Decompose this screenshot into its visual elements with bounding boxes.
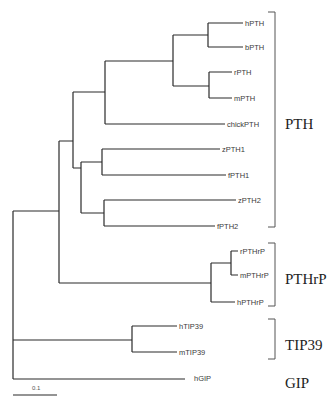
leaf-label-mPTH: mPTH (234, 94, 255, 103)
bracket-pthrp (268, 243, 275, 306)
group-label-tip39: TIP39 (285, 337, 323, 353)
leaf-label-fPTH2: fPTH2 (217, 222, 238, 231)
branch-root (13, 211, 185, 379)
leaf-label-bPTH: bPTH (245, 43, 264, 52)
branch-pth1-fish-node (102, 149, 226, 175)
leaf-label-rPTHrP: rPTHrP (240, 247, 265, 256)
bracket-tip39 (268, 319, 275, 359)
branch-hPTH-bPTH-node (208, 23, 243, 47)
leaf-label-hPTHrP: hPTHrP (237, 298, 264, 307)
leaf-label-chickPTH: chickPTH (227, 120, 259, 129)
branch-tip39-node (132, 326, 177, 352)
group-label-pthrp: PTHrP (285, 271, 327, 287)
leaf-label-rPTH: rPTH (234, 68, 252, 77)
leaf-label-zPTH2: zPTH2 (238, 196, 261, 205)
branch-tetrapod-pth-node (105, 61, 225, 124)
group-label-pth: PTH (285, 116, 314, 132)
tree-branches (13, 23, 243, 379)
scale-bar-label: 0.1 (32, 385, 41, 391)
leaf-label-mTIP39: mTIP39 (179, 348, 205, 357)
leaf-label-zPTH1: zPTH1 (222, 145, 245, 154)
branch-rm-pthrp-node (231, 251, 238, 275)
leaf-label-hPTH: hPTH (245, 19, 264, 28)
group-label-gip: GIP (285, 375, 309, 391)
branch-fish-pth-node (81, 162, 104, 213)
leaf-label-mPTHrP: mPTHrP (240, 271, 269, 280)
leaf-labels: hPTH bPTH rPTH mPTH chickPTH zPTH1 fPTH1… (179, 19, 269, 383)
phylogenetic-tree: hPTH bPTH rPTH mPTH chickPTH zPTH1 fPTH1… (0, 0, 335, 401)
leaf-label-fPTH1: fPTH1 (228, 171, 249, 180)
branch-mammal-pth-node (173, 35, 209, 86)
group-labels: PTH PTHrP TIP39 GIP (285, 116, 327, 391)
leaf-label-hGIP: hGIP (194, 374, 211, 383)
scale-bar: 0.1 (13, 385, 57, 395)
branch-pth-node (73, 92, 105, 168)
group-brackets (268, 12, 275, 359)
leaf-label-hTIP39: hTIP39 (179, 322, 203, 331)
bracket-pth (268, 12, 275, 227)
branch-rPTH-mPTH-node (209, 72, 232, 98)
